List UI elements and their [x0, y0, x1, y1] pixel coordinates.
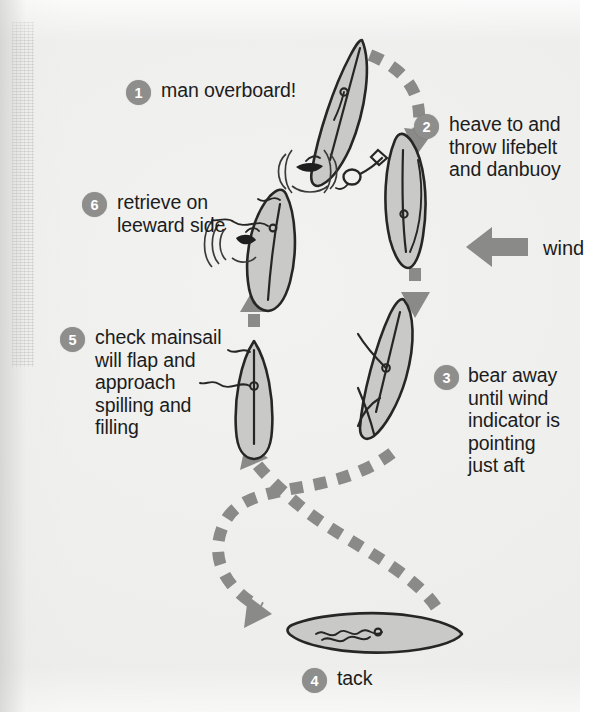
boat-step-1 — [311, 40, 367, 186]
step-label-1: man overboard! — [161, 79, 296, 102]
step-label-4: tack — [337, 667, 372, 690]
step-badge-5: 5 — [60, 327, 85, 352]
step-badge-6: 6 — [82, 192, 107, 217]
wind-arrow-left-icon — [466, 227, 528, 267]
step-badge-1: 1 — [126, 80, 151, 105]
step-label-2: heave to and throw lifebelt and danbuoy — [449, 113, 561, 181]
boat-step-4 — [288, 613, 463, 652]
step-badge-2: 2 — [414, 114, 439, 139]
step-badge-4: 4 — [302, 668, 327, 693]
diagram-artwork: .track { fill: none; stroke: #8a8a88; st… — [0, 0, 609, 720]
step-label-5: check mainsail will flap and approach sp… — [95, 326, 221, 439]
step-label-3: bear away until wind indicator is pointi… — [468, 364, 560, 477]
boat-step-3 — [358, 299, 413, 439]
step-badge-3: 3 — [434, 365, 459, 390]
diagram-page: .track { fill: none; stroke: #8a8a88; st… — [0, 0, 609, 720]
path-3-to-4 — [218, 453, 392, 628]
step-label-6: retrieve on leeward side — [117, 191, 225, 236]
path-4-to-5 — [240, 441, 436, 607]
boat-step-2 — [385, 134, 425, 268]
wind-label: wind — [543, 237, 584, 260]
